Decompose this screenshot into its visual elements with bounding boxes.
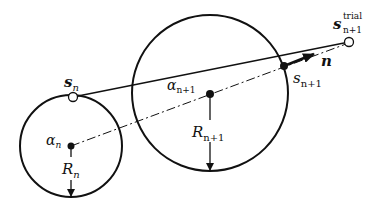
label-s-n: sn xyxy=(64,73,79,93)
normal-arrow xyxy=(284,54,314,66)
label-normal: n xyxy=(321,52,332,70)
label-alpha-n1: αn+1 xyxy=(167,77,196,95)
label-R-n1: Rn+1 xyxy=(191,123,224,143)
label-s-n1: sn+1 xyxy=(293,69,322,89)
yield-surface-diagram: sn αn Rn αn+1 Rn+1 sn+1 n s trial n+1 xyxy=(0,0,383,205)
label-s-trial-sup: trial xyxy=(343,11,362,21)
label-s-trial-base: s xyxy=(333,15,342,33)
label-s-trial-sub: n+1 xyxy=(343,25,362,35)
point-alpha-n xyxy=(68,143,75,150)
point-s-trial xyxy=(345,38,354,47)
label-R-n: Rn xyxy=(61,160,80,180)
label-alpha-n: αn xyxy=(46,132,61,150)
point-s-n xyxy=(69,93,78,102)
point-s-n1 xyxy=(280,62,288,70)
point-alpha-n1 xyxy=(206,90,214,98)
